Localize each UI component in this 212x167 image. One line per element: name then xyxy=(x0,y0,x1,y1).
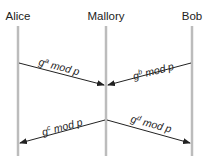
message-label-gc: gc mod p xyxy=(40,116,83,138)
message-label-ga: ga mod p xyxy=(37,55,81,77)
message-label-gd: gd mod p xyxy=(129,112,173,134)
message-label-gb: gb mod p xyxy=(131,60,175,82)
actor-bob-label: Bob xyxy=(182,10,202,22)
sequence-diagram: Alice Mallory Bob ga mod p gb mod p gc m… xyxy=(0,0,212,167)
actor-alice-label: Alice xyxy=(6,10,31,22)
actor-mallory-label: Mallory xyxy=(87,10,124,22)
